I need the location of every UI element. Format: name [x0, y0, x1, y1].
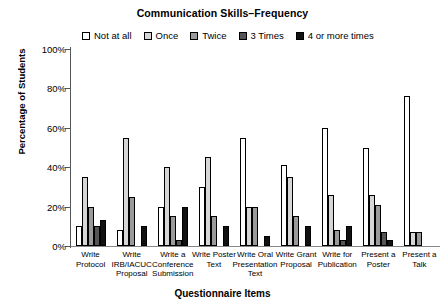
x-axis-line: [70, 246, 440, 247]
chart-figure: Communication Skills–Frequency Not at al…: [0, 0, 445, 307]
bar[interactable]: [100, 220, 106, 246]
bar[interactable]: [211, 216, 217, 246]
legend-swatch-icon: [239, 32, 247, 40]
bar-group: [317, 49, 358, 246]
bar[interactable]: [223, 226, 229, 246]
bar-group: [399, 49, 440, 246]
x-axis-tick-label-line: Submission: [146, 269, 199, 279]
chart-legend: Not at allOnceTwice3 Times4 or more time…: [82, 29, 438, 43]
legend-swatch-icon: [144, 32, 152, 40]
bar[interactable]: [387, 240, 393, 246]
bars-layer: [70, 49, 440, 246]
legend-label: 4 or more times: [308, 31, 374, 41]
y-axis-tick-label: 20%: [47, 201, 66, 212]
y-axis-tick-label: 80%: [47, 83, 66, 94]
bar[interactable]: [346, 226, 352, 246]
y-axis-title: Percentage of Students: [16, 32, 27, 172]
legend-label: 3 Times: [251, 31, 284, 41]
legend-entry[interactable]: Once: [144, 31, 179, 41]
bar-group: [234, 49, 275, 246]
legend-swatch-icon: [296, 32, 304, 40]
y-axis-tick-label: 100%: [42, 44, 66, 55]
x-axis-title: Questionnaire Items: [0, 288, 445, 299]
x-axis-tick-label: Present aTalk: [393, 250, 445, 269]
bar[interactable]: [182, 207, 188, 246]
bar[interactable]: [264, 236, 270, 246]
legend-label: Twice: [202, 31, 226, 41]
bar[interactable]: [252, 207, 258, 246]
bar-group: [358, 49, 399, 246]
bar-group: [152, 49, 193, 246]
legend-swatch-icon: [190, 32, 198, 40]
y-axis-tick-label: 40%: [47, 162, 66, 173]
legend-label: Not at all: [94, 31, 132, 41]
y-axis-tick-label: 60%: [47, 122, 66, 133]
bar[interactable]: [416, 232, 422, 246]
legend-entry[interactable]: 4 or more times: [296, 31, 374, 41]
bar[interactable]: [305, 226, 311, 246]
x-axis-tick-label-line: Present a: [393, 250, 445, 260]
legend-entry[interactable]: Not at all: [82, 31, 132, 41]
x-axis-tick-label-line: Talk: [393, 260, 445, 270]
bar[interactable]: [293, 216, 299, 246]
bar-group: [276, 49, 317, 246]
bar-group: [111, 49, 152, 246]
x-axis-tick-label-line: Text: [228, 269, 281, 279]
legend-entry[interactable]: Twice: [190, 31, 226, 41]
bar-group: [193, 49, 234, 246]
chart-title: Communication Skills–Frequency: [0, 7, 445, 19]
bar-group: [70, 49, 111, 246]
bar[interactable]: [141, 226, 147, 246]
legend-entry[interactable]: 3 Times: [239, 31, 284, 41]
bar[interactable]: [129, 197, 135, 246]
plot-area: 0%20%40%60%80%100%: [70, 49, 440, 246]
legend-label: Once: [156, 31, 179, 41]
bar[interactable]: [404, 96, 410, 246]
legend-swatch-icon: [82, 32, 90, 40]
